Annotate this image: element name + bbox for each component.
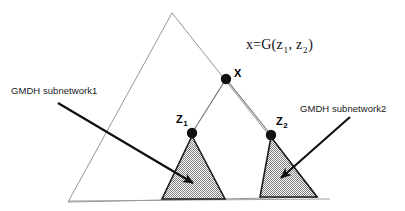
annotation-label-subnetwork1-text: GMDH subnetwork1: [11, 85, 97, 96]
node-label-z1: Z1: [176, 114, 188, 128]
annotation-arrow-subnetwork1: [58, 103, 193, 183]
node-label-z2-subscript: 2: [283, 121, 288, 130]
annotation-label-subnetwork2-text: GMDH subnetwork2: [300, 103, 386, 114]
figure-root: x=G(z1, z2) X Z1 Z2 GMDH subnetwork1 GMD…: [0, 0, 405, 211]
gmdh-subnetwork2-triangle: [260, 137, 317, 197]
node-x: [221, 74, 231, 84]
node-label-z1-text: Z: [176, 113, 183, 125]
annotation-arrow-subnetwork2: [281, 117, 350, 178]
node-z1: [187, 128, 197, 138]
node-label-z2: Z2: [276, 116, 288, 130]
node-label-z2-text: Z: [276, 115, 283, 127]
node-z2: [266, 130, 276, 140]
node-label-z1-subscript: 1: [183, 119, 188, 128]
output-formula: x=G(z1, z2): [246, 38, 313, 55]
formula-mid: , z: [289, 37, 303, 52]
edge-x-to-z2: [226, 79, 271, 135]
annotation-label-subnetwork1: GMDH subnetwork1: [11, 86, 97, 96]
node-label-x: X: [234, 68, 241, 79]
formula-lead: x=G(z: [246, 37, 283, 52]
annotation-label-subnetwork2: GMDH subnetwork2: [300, 104, 386, 114]
node-label-x-text: X: [234, 67, 241, 79]
gmdh-subnetwork1-triangle: [162, 136, 225, 199]
edge-x-to-z1: [192, 79, 226, 133]
formula-close: ): [308, 37, 313, 52]
